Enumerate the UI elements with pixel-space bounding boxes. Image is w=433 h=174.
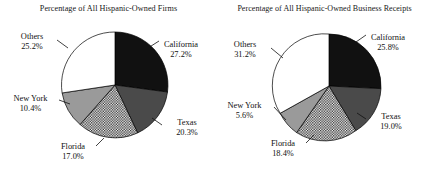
pie-chart-firms [0, 0, 217, 174]
pie-label-others-name: Others [234, 40, 256, 49]
pie-label-florida: Florida 17.0% [48, 142, 98, 163]
pie-label-texas-value: 20.3% [163, 128, 211, 138]
pie-label-others-value: 31.2% [219, 50, 271, 60]
pie-label-texas: Texas 20.3% [163, 118, 211, 139]
pie-label-texas-value: 19.0% [367, 122, 415, 132]
pie-label-new-york-name: New York [228, 101, 262, 110]
pie-label-texas-name: Texas [381, 112, 400, 121]
pie-label-new-york-name: New York [14, 94, 48, 103]
pie-label-california-value: 27.2% [150, 50, 212, 60]
pie-label-california-name: California [164, 40, 198, 49]
leader-line-others [57, 40, 68, 48]
pie-label-others: Others 31.2% [219, 40, 271, 61]
pie-label-texas-name: Texas [177, 118, 196, 127]
pie-label-new-york-value: 10.4% [2, 104, 59, 114]
pie-label-florida-name: Florida [271, 139, 295, 148]
pie-slice-others [61, 32, 115, 93]
chart-panel-hispanic-owned-business-receipts: Percentage of All Hispanic-Owned Busines… [216, 0, 433, 174]
pie-label-florida-name: Florida [61, 142, 85, 151]
pie-label-florida: Florida 18.4% [258, 139, 308, 160]
pie-label-florida-value: 17.0% [48, 152, 98, 162]
pie-label-california: California 27.2% [150, 40, 212, 61]
pie-label-florida-value: 18.4% [258, 149, 308, 159]
pie-label-california: California 25.8% [357, 33, 419, 54]
leader-line-others [271, 48, 283, 58]
pie-label-california-name: California [371, 33, 405, 42]
pie-label-others-value: 25.2% [6, 42, 58, 52]
pie-label-others: Others 25.2% [6, 32, 58, 53]
figure-two-pie-charts: Percentage of All Hispanic-Owned Firms [0, 0, 433, 174]
pie-label-others-name: Others [21, 32, 43, 41]
pie-label-new-york: New York 5.6% [216, 101, 273, 122]
pie-label-texas: Texas 19.0% [367, 112, 415, 133]
pie-label-new-york-value: 5.6% [216, 111, 273, 121]
pie-label-california-value: 25.8% [357, 43, 419, 53]
pie-label-new-york: New York 10.4% [2, 94, 59, 115]
pie-chart-business-receipts [216, 0, 433, 174]
chart-panel-hispanic-owned-firms: Percentage of All Hispanic-Owned Firms [0, 0, 217, 174]
